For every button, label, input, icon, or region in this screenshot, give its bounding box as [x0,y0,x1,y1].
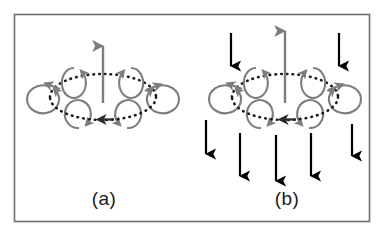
vortex-diagram: (a) [0,0,384,238]
figure-root: (a) [0,0,384,238]
figure-border [15,15,370,222]
panel-a-label: (a) [92,188,117,209]
panel-b-label: (b) [275,188,300,209]
